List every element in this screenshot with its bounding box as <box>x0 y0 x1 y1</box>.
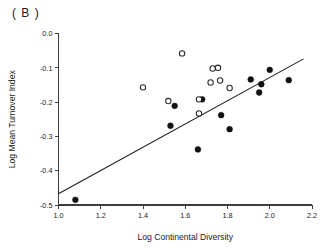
x-tick-label: 1.2 <box>96 211 106 220</box>
y-axis-title: Log Mean Turnover Index <box>7 70 17 169</box>
data-point-open <box>217 78 222 83</box>
data-point-filled <box>258 81 264 87</box>
data-point-filled <box>248 77 254 83</box>
axes <box>59 34 313 206</box>
data-point-open <box>140 85 145 90</box>
axis-titles: Log Continental DiversityLog Mean Turnov… <box>7 70 234 242</box>
data-point-open <box>208 80 213 85</box>
y-tick-label: -0.2 <box>40 98 53 107</box>
axis-ticks <box>55 34 312 209</box>
data-point-open <box>227 85 232 90</box>
regression-line <box>59 59 304 194</box>
x-tick-label: 1.4 <box>138 211 148 220</box>
y-tick-label: -0.4 <box>40 166 53 175</box>
data-point-open <box>196 97 201 102</box>
data-points <box>73 51 292 203</box>
y-tick-label: -0.3 <box>40 132 53 141</box>
axis-tick-labels: 0.0-0.1-0.2-0.3-0.4-0.51.01.21.41.61.82.… <box>40 29 317 219</box>
data-point-filled <box>73 197 79 203</box>
scatter-plot: 0.0-0.1-0.2-0.3-0.4-0.51.01.21.41.61.82.… <box>0 0 324 251</box>
data-point-filled <box>267 67 273 73</box>
data-point-open <box>215 65 220 70</box>
data-point-filled <box>227 126 233 132</box>
x-axis-title: Log Continental Diversity <box>137 232 233 242</box>
y-tick-label: 0.0 <box>42 29 52 38</box>
figure-panel-b: ( B ) 0.0-0.1-0.2-0.3-0.4-0.51.01.21.41.… <box>0 0 324 251</box>
regression-line-segment <box>59 59 304 194</box>
data-point-open <box>196 111 201 116</box>
y-tick-label: -0.5 <box>40 201 53 210</box>
x-tick-label: 2.2 <box>307 211 317 220</box>
x-tick-label: 1.8 <box>222 211 232 220</box>
data-point-filled <box>195 147 201 153</box>
x-tick-label: 1.6 <box>180 211 190 220</box>
data-point-filled <box>218 112 224 118</box>
data-point-open <box>210 66 215 71</box>
data-point-filled <box>286 77 292 83</box>
data-point-open <box>166 98 171 103</box>
y-tick-label: -0.1 <box>40 64 53 73</box>
x-tick-label: 2.0 <box>265 211 275 220</box>
data-point-filled <box>172 103 178 109</box>
data-point-filled <box>168 123 174 129</box>
x-tick-label: 1.0 <box>53 211 63 220</box>
data-point-open <box>179 51 184 56</box>
data-point-filled <box>256 90 262 96</box>
